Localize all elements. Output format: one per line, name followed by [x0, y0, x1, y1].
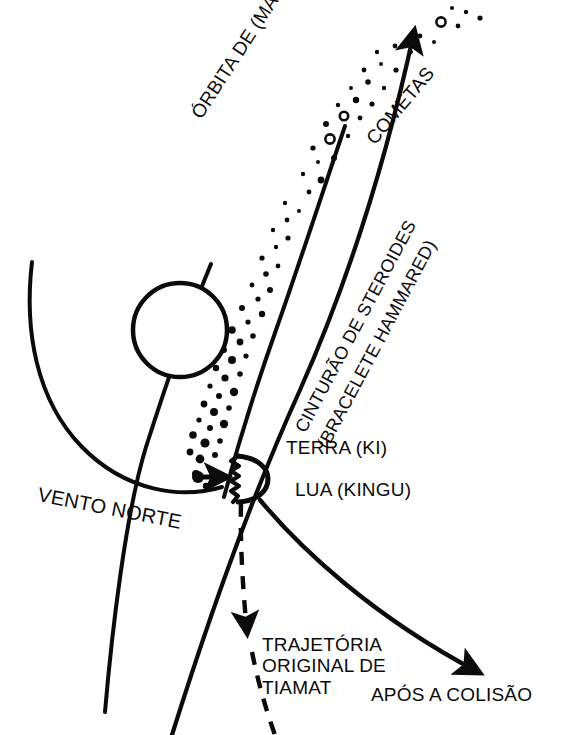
diagram-svg [0, 0, 581, 735]
label-trajetoria-line2: ORIGINAL DE [262, 655, 386, 676]
label-trajetoria-original-tiamat: TRAJETÓRIA ORIGINAL DE TIAMAT [262, 634, 386, 698]
label-trajetoria-line1: TRAJETÓRIA [262, 634, 386, 655]
sun-body [133, 283, 227, 377]
moon-kingu-jagged-edge [231, 456, 239, 502]
north-wind-origin-dot [192, 471, 204, 483]
label-trajetoria-line3: TIAMAT [262, 677, 386, 698]
label-apos-colisao: APÓS A COLISÃO [371, 684, 532, 705]
label-terra-ki: TERRA (KI) [286, 437, 387, 458]
label-lua-kingu: LUA (KINGU) [295, 479, 411, 500]
diagram-canvas: ÓRBITA DE (MARDUK) COMETAS CINTURÃO DE S… [0, 0, 581, 735]
